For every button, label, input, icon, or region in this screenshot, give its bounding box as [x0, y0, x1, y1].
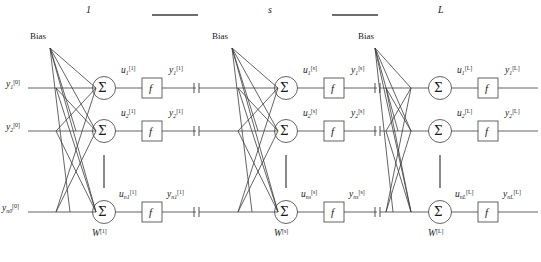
block-1-activations — [116, 78, 197, 222]
activation-box-block-L-row-1: f — [485, 82, 488, 94]
activation-box-block-1-row-2: f — [149, 125, 152, 137]
block-s-wires — [199, 48, 278, 212]
neural-network-diagram: 1 s L Bias Bias Bias Σ Σ Σ Σ Σ Σ Σ Σ Σ f… — [0, 0, 541, 262]
sum-node-block-L-row-2: Σ — [434, 124, 442, 138]
layer-header-s: s — [268, 5, 272, 15]
u-label-block-L-row-2: u2[L] — [457, 109, 472, 119]
u-label-block-s-row-2: u2[s] — [303, 109, 317, 119]
sym-sup: [s] — [282, 228, 288, 234]
activation-box-block-L-row-n: f — [485, 206, 488, 218]
u-label-block-1-row-n: un1[1] — [119, 190, 136, 200]
y-label-block-L-row-n: ynL[L] — [503, 190, 521, 200]
activation-box-block-L-row-2: f — [485, 125, 488, 137]
block-s-neurons — [275, 77, 298, 224]
sym-sup: [0] — [13, 79, 20, 85]
activation-box-block-1-row-1: f — [149, 82, 152, 94]
sum-node-block-s-row-n: Σ — [280, 205, 288, 219]
input-label-y2-layer0: y2[0] — [6, 123, 20, 133]
block-L-fan-in — [411, 88, 429, 212]
sum-node-block-L-row-n: Σ — [434, 205, 442, 219]
weight-label-block-s: W[s] — [274, 229, 288, 239]
bias-label-block-1: Bias — [30, 32, 46, 41]
bias-label-block-s: Bias — [212, 32, 228, 41]
y-label-block-1-row-n: yn1[1] — [167, 190, 184, 200]
sym-sup: [L] — [436, 228, 444, 234]
sum-node-block-1-row-1: Σ — [98, 81, 106, 95]
block-s-activations — [298, 78, 378, 222]
sym-base: W — [274, 228, 282, 238]
sym-sup: [L] — [512, 65, 520, 71]
sym-sup: [0] — [13, 122, 20, 128]
sym-sup: [1] — [100, 228, 107, 234]
sym-sup: [L] — [512, 108, 520, 114]
sym-sup: [s] — [311, 189, 317, 195]
u-label-block-1-row-1: u1[1] — [121, 66, 136, 76]
activation-box-block-s-row-2: f — [331, 125, 334, 137]
sym-base: W — [428, 228, 436, 238]
diagram-canvas — [0, 0, 541, 262]
y-label-block-1-row-2: y2[1] — [169, 109, 183, 119]
block-1-wires — [28, 48, 96, 212]
sym-sup: [L] — [513, 189, 521, 195]
sym-sup: [L] — [465, 65, 473, 71]
u-label-block-s-row-1: u1[s] — [303, 66, 317, 76]
y-label-block-s-row-n: yns[s] — [349, 190, 365, 200]
sym-sup: [s] — [358, 108, 364, 114]
u-label-block-L-row-n: unL[L] — [455, 190, 473, 200]
u-label-block-1-row-2: u2[1] — [121, 109, 136, 119]
input-label-yn0-layer0: yn0[0] — [2, 204, 19, 214]
sym-sup: [1] — [176, 65, 183, 71]
sym-sup: [s] — [311, 65, 317, 71]
signal-break-mark-2 — [375, 83, 380, 217]
activation-box-block-1-row-n: f — [149, 206, 152, 218]
weight-label-block-L: W[L] — [428, 229, 443, 239]
sym-sup: [1] — [130, 189, 137, 195]
sym-sup: [0] — [12, 203, 19, 209]
block-L-neurons — [429, 77, 452, 224]
sym-sup: [1] — [176, 108, 183, 114]
y-label-block-s-row-1: y1[s] — [351, 66, 364, 76]
block-L-activations — [452, 78, 539, 222]
sym-sup: [1] — [129, 108, 136, 114]
u-label-block-L-row-1: u1[L] — [457, 66, 472, 76]
sym-sup: [s] — [358, 189, 364, 195]
y-label-block-s-row-2: y2[s] — [351, 109, 364, 119]
sym-sup: [1] — [129, 65, 136, 71]
y-label-block-L-row-2: y2[L] — [505, 109, 520, 119]
sym-sup: [1] — [177, 189, 184, 195]
sum-node-block-L-row-1: Σ — [434, 81, 442, 95]
sum-node-block-1-row-n: Σ — [98, 205, 106, 219]
input-label-y1-layer0: y1[0] — [6, 80, 20, 90]
activation-box-block-s-row-n: f — [331, 206, 334, 218]
sym-sup: [L] — [465, 108, 473, 114]
sum-node-block-s-row-2: Σ — [280, 124, 288, 138]
y-label-block-1-row-1: y1[1] — [169, 66, 183, 76]
layer-header-1: 1 — [86, 5, 91, 15]
signal-break-mark-1 — [194, 83, 199, 217]
sum-node-block-1-row-2: Σ — [98, 124, 106, 138]
activation-box-block-s-row-1: f — [331, 82, 334, 94]
sym-sup: [s] — [358, 65, 364, 71]
sym-base: W — [92, 228, 100, 238]
layer-header-L: L — [438, 5, 444, 15]
sum-node-block-s-row-1: Σ — [280, 81, 288, 95]
weight-label-block-1: W[1] — [92, 229, 107, 239]
block-1-neurons — [93, 77, 116, 224]
y-label-block-L-row-1: y1[L] — [505, 66, 520, 76]
sym-sup: [L] — [466, 189, 474, 195]
bias-label-block-L: Bias — [358, 32, 374, 41]
sym-sup: [s] — [311, 108, 317, 114]
u-label-block-s-row-n: uns[s] — [301, 190, 317, 200]
